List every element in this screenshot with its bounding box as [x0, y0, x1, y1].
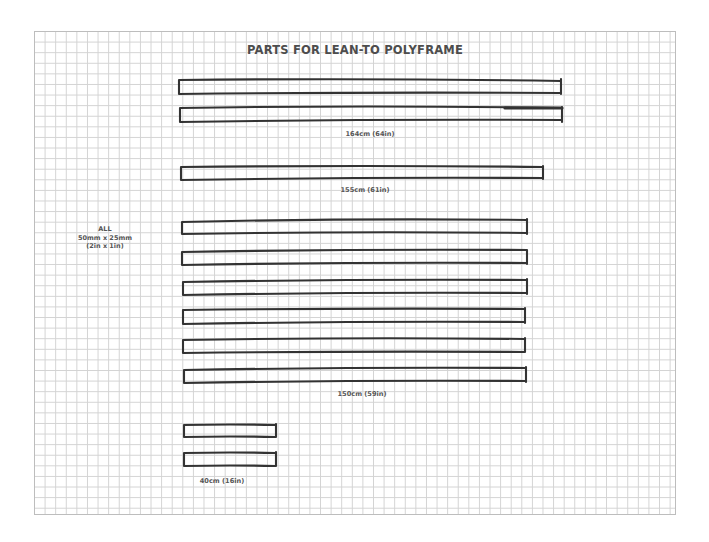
- part-group-40cm: [184, 424, 276, 466]
- part-bar: [183, 338, 525, 353]
- part-group-164cm: [179, 79, 562, 122]
- part-label-155cm: 155cm (61in): [315, 186, 415, 194]
- part-bar: [181, 166, 543, 180]
- part-group-155cm: [181, 166, 543, 180]
- part-bar: [179, 79, 561, 94]
- part-label-150cm: 150cm (59in): [312, 390, 412, 398]
- part-bar: [184, 367, 526, 383]
- part-label-164cm: 164cm (64in): [320, 130, 420, 138]
- part-bar: [183, 308, 525, 324]
- part-bar: [184, 452, 276, 466]
- graph-paper-sheet: PARTS FOR LEAN-TO POLYFRAME ALL 50mm x 2…: [34, 31, 676, 515]
- part-label-40cm: 40cm (16in): [182, 477, 262, 485]
- part-group-150cm: [182, 219, 527, 383]
- part-bar: [184, 424, 276, 437]
- part-bar: [182, 219, 527, 234]
- parts-drawing: [35, 32, 675, 514]
- part-bar: [183, 279, 527, 295]
- part-bar: [182, 250, 527, 265]
